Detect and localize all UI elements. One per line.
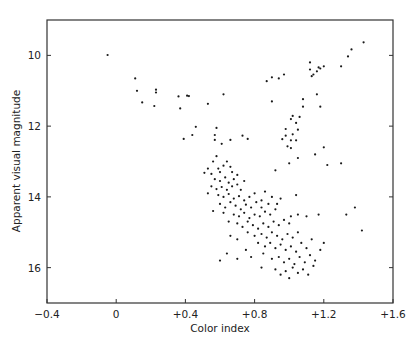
star-data-point (247, 231, 249, 233)
star-data-point (271, 100, 273, 102)
star-data-point (278, 224, 280, 226)
star-data-point (297, 272, 299, 274)
star-data-point (215, 188, 217, 190)
star-data-point (314, 260, 316, 262)
star-data-point (228, 221, 230, 223)
star-data-point (228, 193, 230, 195)
star-data-point (280, 198, 282, 200)
star-data-point (281, 138, 283, 140)
star-data-point (222, 165, 224, 167)
star-data-point (254, 214, 256, 216)
x-tick-label: +1.6 (380, 308, 406, 320)
star-data-point (286, 233, 288, 235)
star-data-point (300, 242, 302, 244)
star-data-point (280, 244, 282, 246)
star-data-point (236, 238, 238, 240)
star-data-point (276, 235, 278, 237)
star-data-point (229, 235, 231, 237)
star-data-point (238, 215, 240, 217)
star-data-point (285, 135, 287, 137)
star-data-point (295, 251, 297, 253)
star-data-point (229, 166, 231, 168)
star-data-point (290, 118, 292, 120)
star-data-point (295, 139, 297, 141)
star-data-point (305, 215, 307, 217)
star-data-point (155, 89, 157, 91)
star-data-point (214, 134, 216, 136)
star-data-point (212, 160, 214, 162)
star-data-point (233, 198, 235, 200)
star-data-point (183, 138, 185, 140)
star-data-point (304, 261, 306, 263)
star-data-point (309, 254, 311, 256)
star-data-point (233, 178, 235, 180)
star-data-point (229, 139, 231, 141)
star-data-point (281, 238, 283, 240)
star-data-point (153, 105, 155, 107)
star-data-point (283, 219, 285, 221)
star-data-point (221, 186, 223, 188)
star-data-point (264, 245, 266, 247)
star-data-point (141, 101, 143, 103)
star-data-point (292, 115, 294, 117)
star-data-point (288, 162, 290, 164)
star-data-point (266, 80, 268, 82)
x-tick-label: −0.4 (34, 308, 60, 320)
star-data-point (136, 90, 138, 92)
star-data-point (326, 164, 328, 166)
star-data-point (221, 143, 223, 145)
x-tick-label: +1.2 (311, 308, 337, 320)
x-tick-label: +0.4 (173, 308, 199, 320)
star-data-point (229, 201, 231, 203)
star-data-point (283, 261, 285, 263)
star-data-point (222, 93, 224, 95)
star-data-point (236, 222, 238, 224)
y-tick-label: 16 (28, 262, 42, 274)
star-data-point (278, 256, 280, 258)
star-data-point (254, 235, 256, 237)
star-data-point (319, 106, 321, 108)
star-data-point (302, 98, 304, 100)
star-data-point (290, 139, 292, 141)
star-data-point (243, 199, 245, 201)
star-data-point (316, 93, 318, 95)
y-axis-label: Apparent visual magnitude (10, 90, 22, 232)
star-data-point (235, 205, 237, 207)
star-data-point (262, 222, 264, 224)
star-data-point (179, 107, 181, 109)
star-data-point (305, 247, 307, 249)
star-data-point (340, 162, 342, 164)
star-data-point (260, 206, 262, 208)
star-data-point (222, 212, 224, 214)
star-data-point (260, 233, 262, 235)
star-data-point (255, 201, 257, 203)
star-data-point (245, 204, 247, 206)
star-data-point (314, 153, 316, 155)
star-data-point (177, 95, 179, 97)
x-tick-label: 0 (113, 308, 120, 320)
star-data-point (250, 206, 252, 208)
x-tick-label: +0.8 (242, 308, 268, 320)
star-data-point (309, 61, 311, 63)
star-data-point (236, 258, 238, 260)
star-data-point (267, 203, 269, 205)
star-data-point (215, 155, 217, 157)
star-data-point (273, 221, 275, 223)
star-data-point (288, 222, 290, 224)
star-data-point (228, 182, 230, 184)
y-tick-label: 10 (28, 49, 41, 61)
star-data-point (285, 270, 287, 272)
star-data-point (219, 203, 221, 205)
star-data-point (260, 199, 262, 201)
star-data-point (217, 194, 219, 196)
star-data-point (203, 172, 205, 174)
x-axis-ticks: −0.40+0.4+0.8+1.2+1.6 (34, 299, 406, 320)
star-data-point (297, 129, 299, 131)
star-data-point (214, 178, 216, 180)
star-data-point (191, 134, 193, 136)
star-data-point (243, 180, 245, 182)
star-data-point (267, 226, 269, 228)
star-data-point (318, 214, 320, 216)
star-data-point (292, 267, 294, 269)
star-data-point (252, 224, 254, 226)
